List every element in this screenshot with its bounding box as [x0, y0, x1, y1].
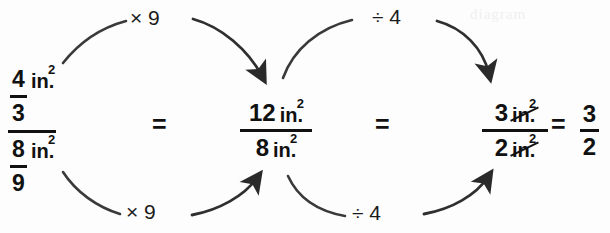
unit-exponent: 2: [529, 132, 536, 145]
unit-square-inches: in.2: [280, 101, 303, 125]
inner-fraction-four-thirds: 4 3: [10, 67, 27, 126]
arrow-bottom-left-head: [192, 178, 257, 215]
arrow-top-left-tail: [63, 21, 126, 63]
third-numerator-value: 3: [495, 101, 508, 125]
ghost-artifact-text: diagram: [470, 6, 526, 23]
middle-numerator-value: 12: [249, 101, 276, 125]
arrow-bottom-right-head: [424, 177, 488, 214]
result-numerator: 3: [581, 101, 598, 127]
complex-fraction-outer: 4 3 in.2 8 9: [8, 66, 56, 197]
unit-square-inches: in.2: [31, 137, 54, 161]
unit-square-inches: in.2: [273, 136, 296, 160]
expression-left-complex-fraction: 4 3 in.2 8 9: [8, 66, 56, 197]
inner-fraction-eight-ninths: 8 9: [10, 137, 27, 196]
unit-exponent: 2: [48, 133, 55, 146]
unit-exponent: 2: [297, 97, 304, 110]
math-diagram-canvas: diagram × 9 × 9 ÷ 4 ÷ 4: [0, 0, 610, 233]
third-denominator-value: 2: [495, 136, 508, 160]
third-fraction: 3 in.2 2 in.2: [482, 100, 548, 161]
unit-square-inches-cancelled: in.2: [512, 136, 535, 160]
expression-middle-fraction: 12 in.2 8 in.2: [240, 100, 312, 161]
unit-square-inches: in.2: [31, 67, 54, 91]
arrow-bottom-left-tail: [63, 172, 120, 214]
arrow-label-top-left: × 9: [130, 6, 160, 30]
arrow-top-right-head: [437, 21, 489, 74]
equals-sign-first: =: [152, 112, 167, 137]
unit-exponent: 2: [48, 63, 55, 76]
arrow-top-right-tail: [283, 20, 352, 78]
arrow-label-bottom-left: × 9: [126, 200, 156, 224]
third-fraction-bar: [482, 129, 548, 132]
arrow-bottom-right-tail: [288, 176, 345, 216]
middle-fraction-bar: [240, 129, 312, 132]
unit-exponent: 2: [529, 97, 536, 110]
result-denominator: 2: [581, 134, 598, 160]
inner-denominator: 3: [10, 101, 27, 126]
result-fraction: 3 2: [580, 101, 599, 160]
unit-exponent: 2: [290, 132, 297, 145]
inner-denominator: 9: [10, 171, 27, 196]
result-fraction-bar: [580, 129, 599, 132]
expression-third-fraction: 3 in.2 2 in.2: [482, 100, 548, 161]
inner-numerator: 4: [10, 67, 27, 92]
complex-fraction-numerator: 4 3 in.2: [8, 66, 56, 127]
middle-fraction-numerator: 12 in.2: [247, 100, 305, 126]
equals-sign-second: =: [375, 112, 390, 137]
inner-fraction-bar: [10, 95, 27, 98]
unit-square-inches-cancelled: in.2: [512, 101, 535, 125]
inner-fraction-bar: [10, 165, 27, 168]
middle-fraction-denominator: 8 in.2: [254, 135, 299, 161]
inner-numerator: 8: [10, 137, 27, 162]
complex-fraction-denominator: 8 9 in.2: [8, 136, 56, 197]
arrow-label-bottom-right: ÷ 4: [352, 201, 381, 225]
equals-sign-third: =: [551, 112, 566, 137]
expression-result-fraction: 3 2: [580, 101, 599, 160]
third-fraction-denominator: 2 in.2: [493, 135, 538, 161]
arrow-label-top-right: ÷ 4: [372, 5, 401, 29]
middle-denominator-value: 8: [256, 136, 269, 160]
arrow-top-left-head: [193, 19, 262, 76]
middle-fraction: 12 in.2 8 in.2: [240, 100, 312, 161]
third-fraction-numerator: 3 in.2: [493, 100, 538, 126]
